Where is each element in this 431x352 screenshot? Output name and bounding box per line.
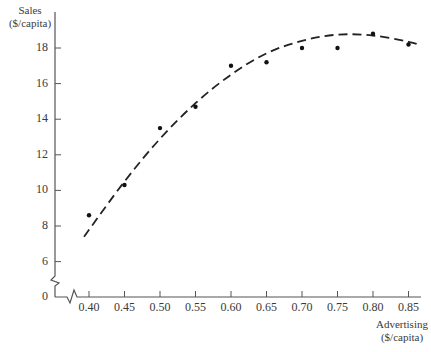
data-point bbox=[229, 64, 233, 68]
x-tick-label: 0.45 bbox=[109, 301, 141, 314]
y-tick-label: 6 bbox=[24, 255, 48, 268]
x-tick-label: 0.85 bbox=[393, 301, 425, 314]
data-point bbox=[264, 60, 268, 64]
x-tick-label: 0.75 bbox=[322, 301, 354, 314]
x-tick-label: 0.70 bbox=[286, 301, 318, 314]
y-tick-label: 8 bbox=[24, 219, 48, 232]
data-point bbox=[406, 42, 410, 46]
y-tick-label: 14 bbox=[24, 112, 48, 125]
y-axis-label-line1: Sales bbox=[8, 4, 52, 17]
data-point bbox=[87, 213, 91, 217]
x-tick-label: 0.40 bbox=[73, 301, 105, 314]
y-tick-label: 12 bbox=[24, 148, 48, 161]
data-point bbox=[300, 46, 304, 50]
y-tick-label: 0 bbox=[24, 290, 48, 303]
y-axis-label-line2: ($/capita) bbox=[8, 17, 52, 30]
y-axis-label: Sales ($/capita) bbox=[8, 4, 52, 30]
data-point bbox=[371, 32, 375, 36]
x-tick-label: 0.60 bbox=[215, 301, 247, 314]
x-axis-label-line2: ($/capita) bbox=[372, 331, 431, 344]
x-axis-label-line1: Advertising bbox=[372, 318, 431, 331]
data-point bbox=[158, 126, 162, 130]
data-point bbox=[193, 105, 197, 109]
data-point bbox=[122, 183, 126, 187]
y-tick-label: 16 bbox=[24, 77, 48, 90]
y-tick-label: 10 bbox=[24, 183, 48, 196]
x-tick-label: 0.55 bbox=[180, 301, 212, 314]
y-tick-label: 18 bbox=[24, 41, 48, 54]
x-tick-label: 0.80 bbox=[357, 301, 389, 314]
x-tick-label: 0.50 bbox=[144, 301, 176, 314]
data-point bbox=[335, 46, 339, 50]
fitted-curve bbox=[84, 34, 421, 236]
x-tick-label: 0.65 bbox=[251, 301, 283, 314]
x-axis-label: Advertising ($/capita) bbox=[372, 318, 431, 344]
